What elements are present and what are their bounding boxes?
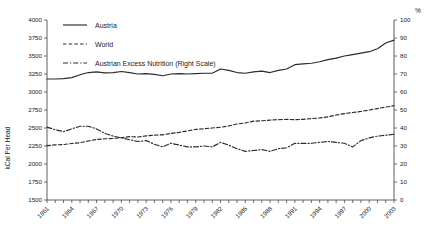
- y2-tick-label: 10: [400, 178, 407, 185]
- y2-tick-label: 50: [400, 106, 407, 113]
- chart-container: 1500175020002250250027503000325035003750…: [0, 0, 439, 247]
- y-tick-label: 3750: [28, 34, 42, 41]
- legend-label: Austria: [95, 22, 117, 29]
- y-tick-label: 1750: [28, 178, 42, 185]
- legend-label: Austrian Excess Nutrition (Right Scale): [95, 60, 216, 68]
- y-tick-label: 4000: [28, 16, 42, 23]
- line-chart: 1500175020002250250027503000325035003750…: [0, 0, 439, 247]
- y2-tick-label: 20: [400, 160, 407, 167]
- y2-tick-label: 90: [400, 34, 407, 41]
- y-tick-label: 2750: [28, 106, 42, 113]
- y2-tick-label: 40: [400, 124, 407, 131]
- y2-tick-label: 80: [400, 52, 407, 59]
- y2-tick-label: 0: [400, 196, 404, 203]
- y2-tick-label: 100: [400, 16, 411, 23]
- y2-tick-label: 60: [400, 88, 407, 95]
- y-tick-label: 3500: [28, 52, 42, 59]
- y-tick-label: 1500: [28, 196, 42, 203]
- y-tick-label: 3000: [28, 88, 42, 95]
- y-tick-label: 2250: [28, 142, 42, 149]
- y-tick-label: 2000: [28, 160, 42, 167]
- y-tick-label: 2500: [28, 124, 42, 131]
- y2-tick-label: 70: [400, 70, 407, 77]
- y2-axis-title: %: [415, 7, 421, 14]
- y-axis-title: kCal Per Head: [4, 126, 11, 169]
- legend-label: World: [95, 41, 113, 48]
- y-tick-label: 3250: [28, 70, 42, 77]
- y2-tick-label: 30: [400, 142, 407, 149]
